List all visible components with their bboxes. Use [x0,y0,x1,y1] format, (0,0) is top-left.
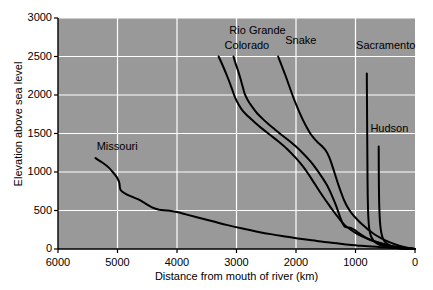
y-tick-3000: 3000 [0,12,52,23]
x-tick-6000: 6000 [28,257,88,268]
x-tick-5000: 5000 [88,257,148,268]
x-tick-2000: 2000 [266,257,326,268]
series-label-rio-grande: Rio Grande [229,25,285,36]
series-label-snake: Snake [285,35,316,46]
x-tick-3000: 3000 [207,257,267,268]
river-profile-chart: Elevation above sea level Distance from … [0,0,433,290]
series-label-missouri: Missouri [97,141,138,152]
x-axis-title: Distance from mouth of river (km) [58,270,415,282]
y-tick-2000: 2000 [0,89,52,100]
y-tick-0: 0 [0,243,52,254]
y-tick-1500: 1500 [0,128,52,139]
series-label-colorado: Colorado [225,40,270,51]
y-tick-2500: 2500 [0,51,52,62]
y-tick-500: 500 [0,205,52,216]
x-tick-1000: 1000 [326,257,386,268]
x-tick-0: 0 [385,257,433,268]
series-label-hudson: Hudson [370,123,408,134]
x-tick-4000: 4000 [147,257,207,268]
series-label-sacramento: Sacramento [356,40,415,51]
y-tick-1000: 1000 [0,166,52,177]
